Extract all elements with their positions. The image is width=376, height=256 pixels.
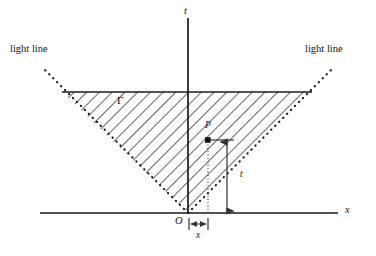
space-measure-label: x xyxy=(196,231,200,241)
x-axis-label: x xyxy=(345,205,350,216)
left-light-line-label: light line xyxy=(10,44,48,55)
right-light-line-label: light line xyxy=(305,44,343,55)
event-point-marker xyxy=(205,137,211,143)
diagram-canvas xyxy=(0,0,376,256)
event-label-p: P xyxy=(205,121,211,131)
time-measure-label: t xyxy=(240,170,243,180)
spacetime-diagram-figure: light line light line Γ P t x O t x xyxy=(0,0,376,256)
region-label-gamma: Γ xyxy=(117,95,123,106)
origin-label: O xyxy=(175,216,183,227)
t-axis-label: t xyxy=(184,6,187,17)
